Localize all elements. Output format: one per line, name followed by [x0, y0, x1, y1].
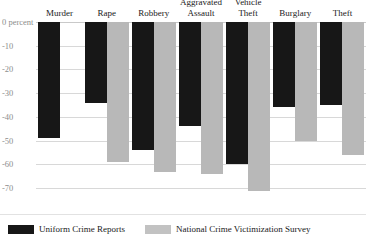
bar-ncvs[interactable]: [248, 22, 270, 191]
bar-ucr[interactable]: [320, 22, 342, 105]
bar-group: [272, 22, 319, 200]
bar-ucr[interactable]: [226, 22, 248, 164]
category-label: Vehicle Theft: [225, 0, 272, 18]
legend-label-ucr: Uniform Crime Reports: [39, 224, 125, 234]
y-tick-label--20: -20: [2, 64, 13, 74]
legend-swatch-icon-ucr: [8, 225, 34, 234]
bar-ucr[interactable]: [132, 22, 154, 150]
y-tick-label-0: 0 percent: [2, 17, 33, 27]
category-label: Aggravated Assault: [177, 0, 224, 18]
legend-item-ucr: Uniform Crime Reports: [8, 224, 125, 234]
category-label: Murder: [36, 8, 83, 19]
category-band-rape: Rape: [83, 22, 130, 200]
bar-group: [225, 22, 272, 200]
category-band-murder: Murder: [36, 22, 83, 200]
category-band-aggravated-assault: Aggravated Assault: [177, 22, 224, 200]
bar-ncvs[interactable]: [154, 22, 176, 172]
legend-divider: [0, 214, 366, 215]
category-band-burglary: Burglary: [272, 22, 319, 200]
bar-ncvs[interactable]: [107, 22, 129, 162]
y-tick-label--60: -60: [2, 159, 13, 169]
y-tick-label--70: -70: [2, 183, 13, 193]
category-band-vehicle-theft: Vehicle Theft: [225, 22, 272, 200]
category-label: Burglary: [272, 8, 319, 19]
legend-label-ncvs: National Crime Victimization Survey: [176, 224, 311, 234]
category-label: Rape: [83, 8, 130, 19]
category-band-robbery: Robbery: [130, 22, 177, 200]
chart-legend: Uniform Crime Reports National Crime Vic…: [8, 224, 311, 234]
legend-swatch-icon-ncvs: [145, 225, 171, 234]
category-label: Theft: [319, 8, 366, 19]
bar-ncvs[interactable]: [342, 22, 364, 155]
legend-item-ncvs: National Crime Victimization Survey: [145, 224, 311, 234]
category-label: Robbery: [130, 8, 177, 19]
y-tick-label--50: -50: [2, 136, 13, 146]
plot-area: MurderRapeRobberyAggravated AssaultVehic…: [36, 22, 366, 200]
bar-ncvs[interactable]: [201, 22, 223, 174]
bar-group: [83, 22, 130, 200]
y-tick-label--10: -10: [2, 41, 13, 51]
bar-ucr[interactable]: [179, 22, 201, 126]
bar-group: [177, 22, 224, 200]
y-tick-label--30: -30: [2, 88, 13, 98]
bar-ucr[interactable]: [273, 22, 295, 107]
bar-ncvs[interactable]: [295, 22, 317, 141]
category-band-theft: Theft: [319, 22, 366, 200]
bar-group: [319, 22, 366, 200]
bar-ucr[interactable]: [85, 22, 107, 103]
y-tick-label--40: -40: [2, 112, 13, 122]
bar-group: [36, 22, 83, 200]
crime-change-bar-chart: 0 percent-10-20-30-40-50-60-70 MurderRap…: [0, 0, 366, 242]
bar-group: [130, 22, 177, 200]
bar-ucr[interactable]: [38, 22, 60, 138]
